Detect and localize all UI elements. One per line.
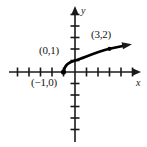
x-axis-label: x	[135, 77, 141, 88]
point-marker-3-2	[107, 47, 111, 51]
x-axis-arrowhead	[133, 69, 141, 76]
coordinate-label-0-1: (0,1)	[39, 45, 59, 56]
point-marker-neg1-0	[61, 69, 66, 74]
y-axis-label: y	[80, 5, 86, 16]
curve-arrowhead	[122, 42, 133, 49]
graph-figure: x y (0,1) (−1,0) (3,2)	[0, 0, 147, 147]
coordinate-label-neg1-0: (−1,0)	[31, 77, 57, 88]
y-axis-group	[71, 6, 80, 142]
coordinate-plane-svg: x y	[0, 0, 147, 147]
coordinate-label-3-2: (3,2)	[91, 29, 111, 40]
y-axis-arrowhead	[72, 6, 79, 14]
